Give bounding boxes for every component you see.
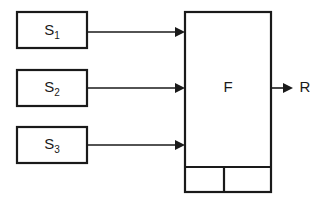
output-label-r: R	[300, 78, 311, 95]
arrowhead-s1-icon	[175, 27, 185, 37]
processor-label-f: F	[223, 78, 232, 95]
source-node-s2[interactable]: S2	[17, 70, 87, 106]
processor-subcell-left[interactable]	[186, 168, 223, 191]
processor-subcell-right[interactable]	[225, 168, 270, 191]
connector-f-to-r	[271, 83, 293, 93]
connector-s2-to-f	[87, 83, 185, 93]
source-node-s1[interactable]: S1	[17, 12, 87, 48]
connector-s1-to-f	[87, 27, 185, 37]
source-node-s3[interactable]: S3	[17, 127, 87, 163]
arrowhead-s3-icon	[175, 140, 185, 150]
processor-box-f[interactable]	[185, 12, 271, 192]
arrowhead-s2-icon	[175, 83, 185, 93]
processor-node-f[interactable]: F	[185, 12, 271, 192]
connector-s3-to-f	[87, 140, 185, 150]
arrowhead-r-icon	[283, 83, 293, 93]
block-diagram-svg: S1 S2 S3	[0, 0, 325, 201]
block-diagram-canvas: S1 S2 S3	[0, 0, 325, 201]
